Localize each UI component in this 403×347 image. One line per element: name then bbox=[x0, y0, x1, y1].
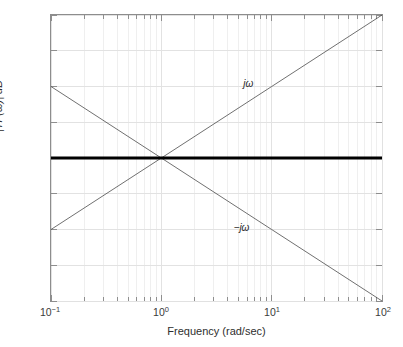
plot-area: jω−jω bbox=[50, 14, 383, 302]
x-tick-label-2: 101 bbox=[264, 306, 280, 318]
x-tick-label-1: 100 bbox=[153, 306, 169, 318]
x-tick-label-3: 102 bbox=[375, 306, 391, 318]
bode-magnitude-figure: |TF(ω)| dB Frequency (rad/sec) jω−jω 10−… bbox=[0, 0, 403, 347]
x-tick-label-0: 10−1 bbox=[40, 306, 60, 318]
y-axis-label: |TF(ω)| dB bbox=[0, 80, 4, 132]
x-axis-label: Frequency (rad/sec) bbox=[50, 325, 383, 337]
curve-annotation-0: jω bbox=[243, 78, 253, 89]
annotation-layer: jω−jω bbox=[51, 15, 382, 301]
curve-annotation-1: −jω bbox=[234, 222, 250, 233]
